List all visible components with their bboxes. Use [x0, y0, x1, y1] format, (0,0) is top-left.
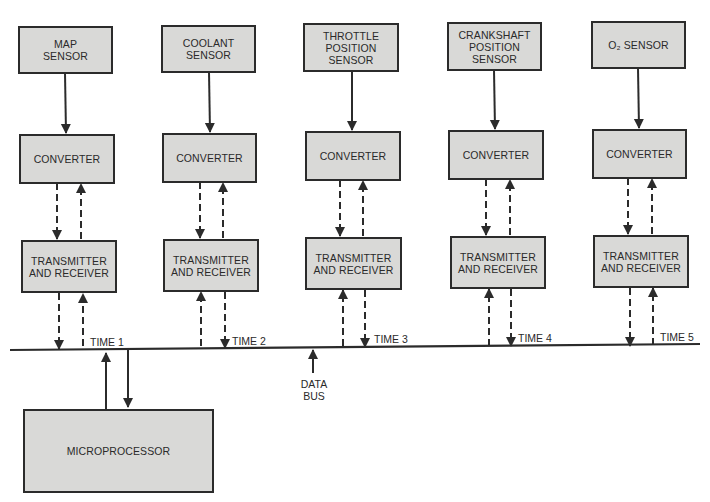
converter-label: CONVERTER [176, 152, 243, 164]
converter-box: CONVERTER [305, 131, 401, 181]
transceiver-label: TRANSMITTER AND RECEIVER [29, 255, 109, 279]
sensor-label: COOLANT SENSOR [183, 37, 234, 61]
throttle-position-sensor-box: THROTTLE POSITION SENSOR [303, 23, 399, 72]
time-label: TIME 5 [660, 331, 694, 343]
converter-label: CONVERTER [320, 150, 387, 162]
converter-box: CONVERTER [592, 129, 687, 179]
converter-label: CONVERTER [606, 148, 673, 160]
microprocessor-box: MICROPROCESSOR [23, 409, 214, 493]
transceiver-box: TRANSMITTER AND RECEIVER [305, 237, 402, 290]
transceiver-label: TRANSMITTER AND RECEIVER [601, 250, 681, 274]
transceiver-label: TRANSMITTER AND RECEIVER [458, 251, 538, 275]
crankshaft-position-sensor-box: CRANKSHAFT POSITION SENSOR [447, 22, 542, 71]
time-label: TIME 1 [90, 336, 124, 348]
converter-box: CONVERTER [448, 130, 544, 180]
sensor-label: O₂ SENSOR [608, 39, 668, 51]
sensor-label: CRANKSHAFT POSITION SENSOR [458, 29, 530, 65]
microprocessor-label: MICROPROCESSOR [67, 445, 171, 457]
time-label: TIME 3 [374, 333, 408, 345]
time-label: TIME 4 [518, 332, 552, 344]
converter-box: CONVERTER [19, 134, 115, 184]
converter-label: CONVERTER [34, 153, 101, 165]
map-sensor-box: MAP SENSOR [18, 26, 113, 74]
transceiver-box: TRANSMITTER AND RECEIVER [163, 239, 259, 292]
o2-sensor-box: O₂ SENSOR [591, 21, 686, 69]
transceiver-label: TRANSMITTER AND RECEIVER [171, 254, 251, 278]
transceiver-box: TRANSMITTER AND RECEIVER [21, 240, 117, 293]
coolant-sensor-box: COOLANT SENSOR [161, 25, 256, 73]
converter-label: CONVERTER [463, 149, 530, 161]
sensor-label: MAP SENSOR [43, 38, 88, 62]
transceiver-box: TRANSMITTER AND RECEIVER [593, 235, 689, 288]
converter-box: CONVERTER [162, 133, 257, 183]
sensor-label: THROTTLE POSITION SENSOR [323, 30, 379, 66]
time-label: TIME 2 [232, 335, 266, 347]
transceiver-box: TRANSMITTER AND RECEIVER [450, 236, 546, 289]
data-bus-label: DATA BUS [298, 378, 330, 402]
transceiver-label: TRANSMITTER AND RECEIVER [314, 252, 394, 276]
